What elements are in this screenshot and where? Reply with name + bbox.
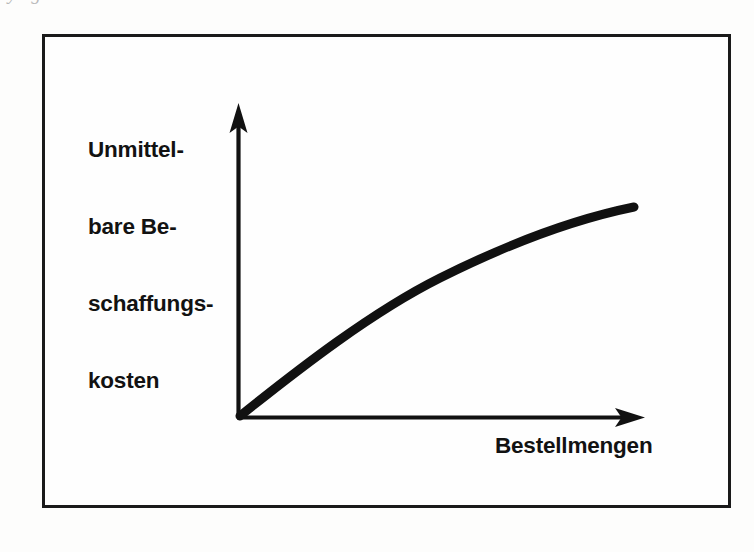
y-axis-label-line-1: Unmittel- (88, 137, 213, 163)
y-axis-label: Unmittel- bare Be- schaffungs- kosten (88, 86, 213, 419)
y-axis-label-line-2: bare Be- (88, 214, 213, 240)
y-axis-label-line-4: kosten (88, 368, 213, 394)
cost-curve (240, 207, 634, 416)
y-axis-label-line-3: schaffungs- (88, 291, 213, 317)
x-axis-label: Bestellmengen (495, 433, 652, 459)
